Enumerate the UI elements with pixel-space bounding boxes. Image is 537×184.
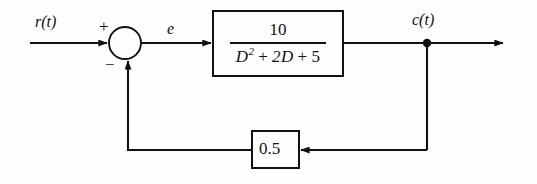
- summing-junction-minus-sign: −: [105, 56, 115, 73]
- block-diagram-figure: r(t) + − e 10 D2+2D+5 c(t) 0.5: [0, 0, 537, 184]
- transfer-function-numerator: 10: [270, 20, 287, 42]
- transfer-function-denominator: D2+2D+5: [236, 44, 320, 67]
- feedback-gain-label: 0.5: [259, 140, 280, 157]
- input-signal-label: r(t): [35, 14, 56, 30]
- error-signal-label: e: [167, 21, 174, 37]
- denominator-operator-two: +: [297, 47, 307, 66]
- denominator-exponent: 2: [248, 45, 254, 57]
- summing-junction-plus-sign: +: [99, 18, 109, 35]
- forward-transfer-function-expression: 10 D2+2D+5: [213, 11, 343, 76]
- denominator-operator-one: +: [258, 47, 268, 66]
- output-signal-label: c(t): [412, 12, 434, 28]
- denominator-term-two: 2D: [272, 47, 293, 66]
- denominator-variable-one: D: [236, 47, 249, 66]
- denominator-term-three: 5: [311, 47, 320, 66]
